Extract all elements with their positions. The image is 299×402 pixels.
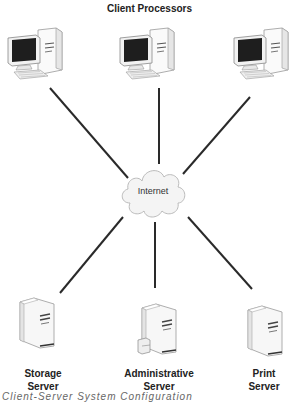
print-server-label: Print Server [234,367,294,393]
administrative-server-label: Administrative Server [114,367,204,393]
storage-server-label-line1: Storage [8,367,78,380]
print-server [242,304,286,362]
print-server-label-line2: Server [234,380,294,393]
storage-server-label: Storage Server [8,367,78,393]
client-computer-3 [230,26,292,85]
server-tower-icon [14,296,58,350]
administrative-server-label-line1: Administrative [114,367,204,380]
figure-caption: Client-Server System Configuration [2,391,193,402]
server-tower-icon [136,302,180,356]
client-computer-1 [4,26,66,85]
client-computer-2 [116,26,178,85]
internet-label: Internet [118,186,188,196]
storage-server [14,296,58,354]
desktop-computer-icon [4,26,66,81]
desktop-computer-icon [116,26,178,81]
desktop-computer-icon [230,26,292,81]
server-tower-icon [242,304,286,358]
administrative-server [136,302,180,360]
print-server-label-line1: Print [234,367,294,380]
